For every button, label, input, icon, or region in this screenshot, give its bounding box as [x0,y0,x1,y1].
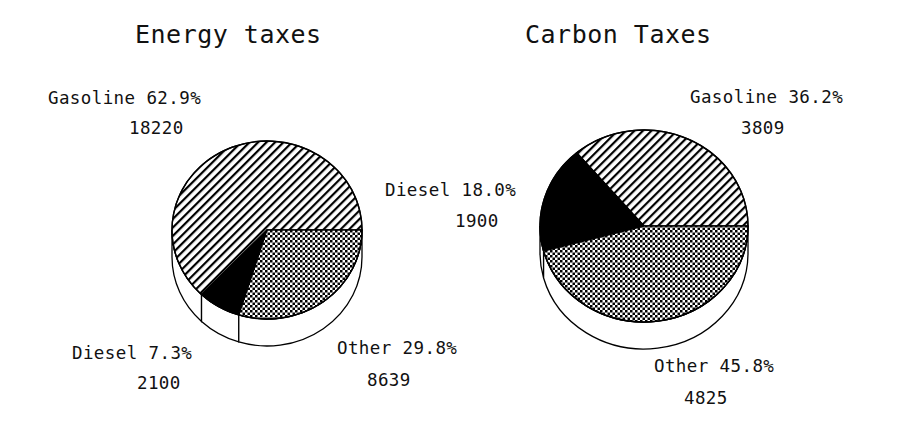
slice-label-carbon-gasoline: Gasoline 36.2% [690,87,843,107]
slice-value-carbon-gasoline: 3809 [741,118,785,138]
slice-label-carbon-diesel: Diesel 18.0% [385,180,516,200]
figure-canvas: Energy taxes Gasoline 62.9% 18220 Diesel… [0,0,904,423]
slice-value-carbon-other: 4825 [684,388,728,408]
slice-label-carbon-other: Other 45.8% [654,356,774,376]
slice-value-carbon-diesel: 1900 [455,211,499,231]
